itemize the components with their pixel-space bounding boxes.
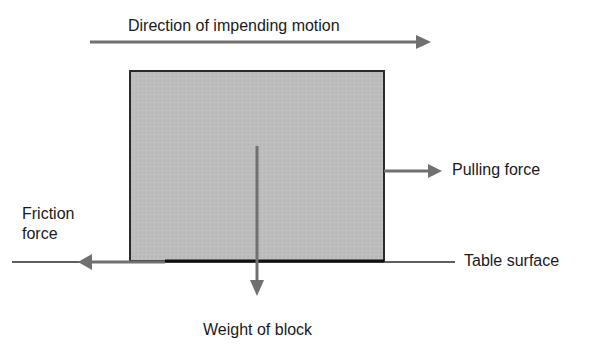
weight-label: Weight of block [203, 320, 312, 340]
table-surface-label: Table surface [464, 251, 559, 271]
free-body-diagram: Direction of impending motion Pulling fo… [0, 0, 590, 357]
motion-direction-arrow [90, 35, 431, 49]
pulling-force-label: Pulling force [452, 160, 540, 180]
friction-label-line1: Friction [22, 204, 102, 224]
friction-force-label: Friction force [22, 204, 102, 244]
motion-direction-label: Direction of impending motion [128, 16, 340, 36]
friction-label-line2: force [22, 224, 102, 244]
pulling-force-arrow [384, 164, 442, 178]
